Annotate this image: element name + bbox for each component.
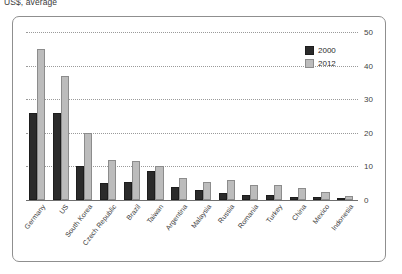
bar-group (50, 32, 74, 200)
bar[interactable] (37, 49, 45, 200)
bar[interactable] (313, 197, 321, 200)
x-axis-category-label: Turkey (265, 203, 284, 224)
bar[interactable] (61, 76, 69, 200)
bar[interactable] (298, 188, 306, 200)
x-axis-category-label: Taiwan (146, 203, 165, 225)
bar[interactable] (179, 178, 187, 200)
legend-swatch-icon (305, 46, 314, 55)
x-axis-category-label: China (290, 203, 307, 222)
x-axis-category-label: Malaysia (189, 203, 212, 229)
bar[interactable] (203, 182, 211, 200)
bar-group (121, 32, 145, 200)
x-axis-category-label: Argentina (164, 203, 188, 231)
bar[interactable] (345, 196, 353, 200)
bar-group (145, 32, 169, 200)
x-axis-category-label: Germany (23, 203, 46, 230)
y-axis-tick-label: 20 (364, 128, 373, 137)
bar[interactable] (100, 183, 108, 200)
bar[interactable] (84, 133, 92, 200)
bar-group (73, 32, 97, 200)
page-title: US$, average (4, 0, 57, 7)
bar[interactable] (290, 197, 298, 200)
bar-group (192, 32, 216, 200)
bar-group (263, 32, 287, 200)
x-axis-category-label: Indonesia (330, 203, 354, 232)
x-axis-line (26, 200, 358, 201)
x-axis-category-label: Russia (217, 203, 236, 224)
x-axis-category-label: Romania (237, 203, 260, 230)
bar[interactable] (337, 198, 345, 200)
y-axis-tick-label: 40 (364, 61, 373, 70)
bar-group (168, 32, 192, 200)
bar[interactable] (321, 192, 329, 200)
legend-label: 2012 (318, 59, 336, 68)
bar[interactable] (195, 190, 203, 200)
bar[interactable] (108, 160, 116, 200)
y-axis-tick-label: 0 (364, 196, 368, 205)
bar[interactable] (155, 166, 163, 200)
bar-group (334, 32, 358, 200)
bar[interactable] (132, 161, 140, 200)
x-axis-category-label: Mexico (311, 203, 330, 225)
legend-item[interactable]: 2000 (305, 45, 336, 56)
chart-frame: 01020304050 GermanyUSSouth KoreaCzech Re… (12, 16, 386, 262)
bar[interactable] (29, 113, 37, 200)
chart-legend: 20002012 (305, 45, 336, 71)
bar[interactable] (124, 182, 132, 200)
bar[interactable] (76, 166, 84, 200)
y-axis-tick-label: 50 (364, 28, 373, 37)
bar-group (216, 32, 240, 200)
bar-group (239, 32, 263, 200)
bar-group (97, 32, 121, 200)
legend-item[interactable]: 2012 (305, 58, 336, 69)
bar[interactable] (171, 187, 179, 200)
bar[interactable] (53, 113, 61, 200)
bar[interactable] (250, 185, 258, 200)
bar[interactable] (147, 171, 155, 200)
bar[interactable] (227, 180, 235, 200)
bar[interactable] (274, 185, 282, 200)
bar[interactable] (242, 195, 250, 200)
bar-group (26, 32, 50, 200)
x-axis-category-label: US (58, 203, 70, 215)
legend-label: 2000 (318, 46, 336, 55)
x-axis-category-label: Brazil (125, 203, 141, 221)
legend-swatch-icon (305, 59, 314, 68)
y-axis-tick-label: 10 (364, 162, 373, 171)
bar[interactable] (266, 195, 274, 200)
bar[interactable] (219, 193, 227, 200)
y-axis-tick-label: 30 (364, 95, 373, 104)
